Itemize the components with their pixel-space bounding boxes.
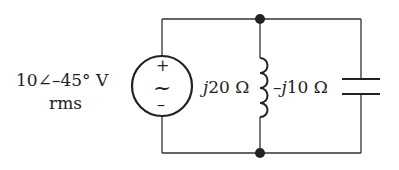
capacitor-value: 10 Ω xyxy=(287,77,328,97)
source-value-label: 10∠–45° V xyxy=(16,72,108,89)
source-minus-symbol: – xyxy=(157,97,165,113)
inductor-impedance-label: j20 Ω xyxy=(203,79,249,96)
capacitor-icon xyxy=(342,79,380,94)
inductor-icon xyxy=(260,58,268,117)
source-plus-symbol: + xyxy=(156,58,169,74)
inductor-value: 20 Ω xyxy=(208,77,249,97)
source-rms-label: rms xyxy=(49,95,82,112)
capacitor-minus: – xyxy=(273,77,282,97)
junction-dot-bottom xyxy=(255,148,265,158)
capacitor-impedance-label: –j10 Ω xyxy=(273,79,328,96)
junction-dot-top xyxy=(255,14,265,24)
